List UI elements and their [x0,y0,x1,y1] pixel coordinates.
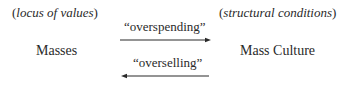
arrow-right-icon [120,38,211,42]
arrows [0,0,346,86]
arrow-left-icon [121,74,209,78]
